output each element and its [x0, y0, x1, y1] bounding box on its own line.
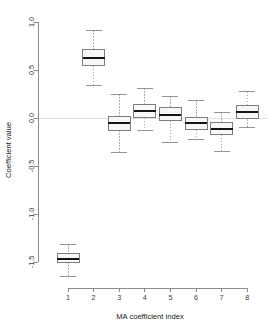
y-tick-label: 0.5 — [27, 65, 36, 75]
x-tick-label: 6 — [194, 293, 198, 302]
x-tick-label: 1 — [66, 293, 70, 302]
y-tick-label: -1.5 — [27, 256, 36, 268]
x-tick-label: 2 — [92, 293, 96, 302]
y-tick-label: 1.0 — [27, 17, 36, 27]
x-tick-label: 8 — [245, 293, 249, 302]
x-tick-label: 4 — [143, 293, 147, 302]
boxplot-figure: 1.00.50.0-0.5-1.0-1.5 12345678 MA coeffi… — [0, 0, 278, 329]
x-axis-title: MA coefficient index — [116, 312, 184, 321]
y-axis-title: Coefficient value — [4, 122, 13, 178]
y-tick-label: -0.5 — [27, 160, 36, 172]
x-tick-label: 3 — [117, 293, 121, 302]
y-tick-label: 0.0 — [27, 113, 36, 123]
figure-background — [0, 0, 278, 329]
x-tick-label: 7 — [220, 293, 224, 302]
plot-canvas: 1.00.50.0-0.5-1.0-1.5 12345678 MA coeffi… — [0, 0, 278, 329]
x-tick-label: 5 — [168, 293, 172, 302]
y-tick-label: -1.0 — [27, 208, 36, 220]
boxplot-svg: 1.00.50.0-0.5-1.0-1.5 12345678 MA coeffi… — [0, 0, 278, 329]
